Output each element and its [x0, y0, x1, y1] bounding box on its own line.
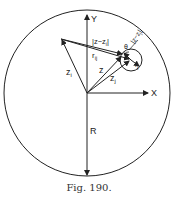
theta-label: θ [124, 43, 128, 50]
diagram: Y X R zi z zj rij rj |z−zi| θ |z−zj| [0, 0, 178, 198]
z-vector [87, 57, 121, 93]
theta-arc [124, 52, 129, 55]
figure-caption: Fig. 190. [0, 182, 178, 193]
r-ij-label: rij [92, 51, 97, 61]
r-j-label: rj [135, 61, 138, 70]
z-i-label: zi [66, 67, 72, 78]
z-j-vector [87, 61, 129, 93]
y-axis-label: Y [91, 14, 97, 24]
z-j-label: zj [110, 73, 116, 84]
z-label: z [99, 65, 104, 75]
dist-i-label: |z−zi| [92, 37, 109, 47]
radius-label: R [90, 126, 97, 136]
x-axis-label: X [151, 88, 157, 98]
